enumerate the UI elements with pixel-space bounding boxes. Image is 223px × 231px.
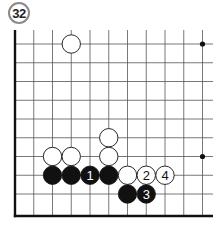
stone-circle <box>118 166 136 184</box>
white-stone <box>43 147 61 165</box>
stone-circle <box>100 129 118 147</box>
stone-circle <box>100 166 118 184</box>
black-stone <box>43 166 61 184</box>
board-grid <box>14 30 213 217</box>
move-number-label: 3 <box>143 187 150 202</box>
move-number-label: 4 <box>161 168 168 183</box>
stone-circle <box>62 35 80 53</box>
white-stone: 4 <box>156 166 174 184</box>
star-point <box>200 41 205 46</box>
stone-circle <box>62 147 80 165</box>
white-stone <box>100 147 118 165</box>
white-stone <box>62 147 80 165</box>
stone-circle <box>118 185 136 203</box>
stone-circle <box>100 147 118 165</box>
black-stone <box>100 166 118 184</box>
black-stone <box>62 166 80 184</box>
black-stone: 1 <box>81 166 99 184</box>
white-stone <box>118 166 136 184</box>
go-board: 1243 <box>0 0 223 231</box>
stone-circle <box>43 147 61 165</box>
white-stone <box>100 129 118 147</box>
star-point <box>200 154 205 159</box>
white-stone: 2 <box>137 166 155 184</box>
white-stone <box>62 35 80 53</box>
black-stone <box>118 185 136 203</box>
move-number-label: 2 <box>143 168 150 183</box>
move-number-label: 1 <box>86 168 93 183</box>
stone-circle <box>62 166 80 184</box>
black-stone: 3 <box>137 185 155 203</box>
stone-circle <box>43 166 61 184</box>
